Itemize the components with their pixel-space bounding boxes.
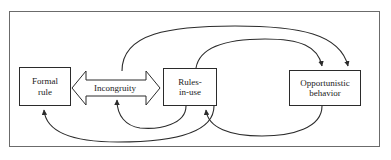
node-opportunistic-behavior-label: Opportunistic behavior xyxy=(300,78,350,99)
figure-canvas: Formal rule Rules- in-use Opportunistic … xyxy=(0,0,391,160)
node-formal-rule[interactable]: Formal rule xyxy=(19,67,71,106)
node-rules-in-use[interactable]: Rules- in-use xyxy=(163,68,217,106)
node-formal-rule-label: Formal rule xyxy=(32,76,58,97)
node-opportunistic-behavior[interactable]: Opportunistic behavior xyxy=(289,70,361,106)
curve-rules-to-opportunistic xyxy=(196,39,322,68)
incongruity-block-arrow xyxy=(72,71,160,105)
node-rules-in-use-label: Rules- in-use xyxy=(178,77,202,98)
curve-incongruity-to-opportunistic xyxy=(122,26,348,71)
curve-opportunistic-to-rules xyxy=(206,106,322,136)
